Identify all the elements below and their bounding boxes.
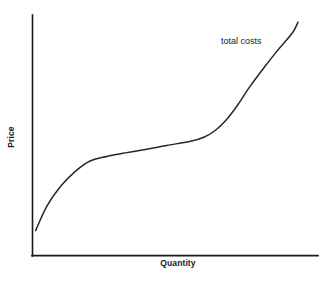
y-axis-label: Price [6, 120, 16, 154]
total-costs-annotation: total costs [221, 36, 262, 46]
plot-canvas [0, 0, 335, 284]
x-axis-label: Quantity [118, 258, 238, 268]
cost-curve-figure: Price Quantity total costs [0, 0, 335, 284]
